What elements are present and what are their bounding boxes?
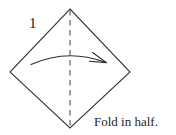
fold-arrow-arc bbox=[31, 56, 104, 65]
figure-caption: Fold in half. bbox=[94, 115, 158, 129]
figure-container: 1 Fold in half. bbox=[0, 0, 176, 135]
step-number-label: 1 bbox=[29, 16, 37, 31]
fold-arrow-head-icon bbox=[90, 53, 107, 63]
